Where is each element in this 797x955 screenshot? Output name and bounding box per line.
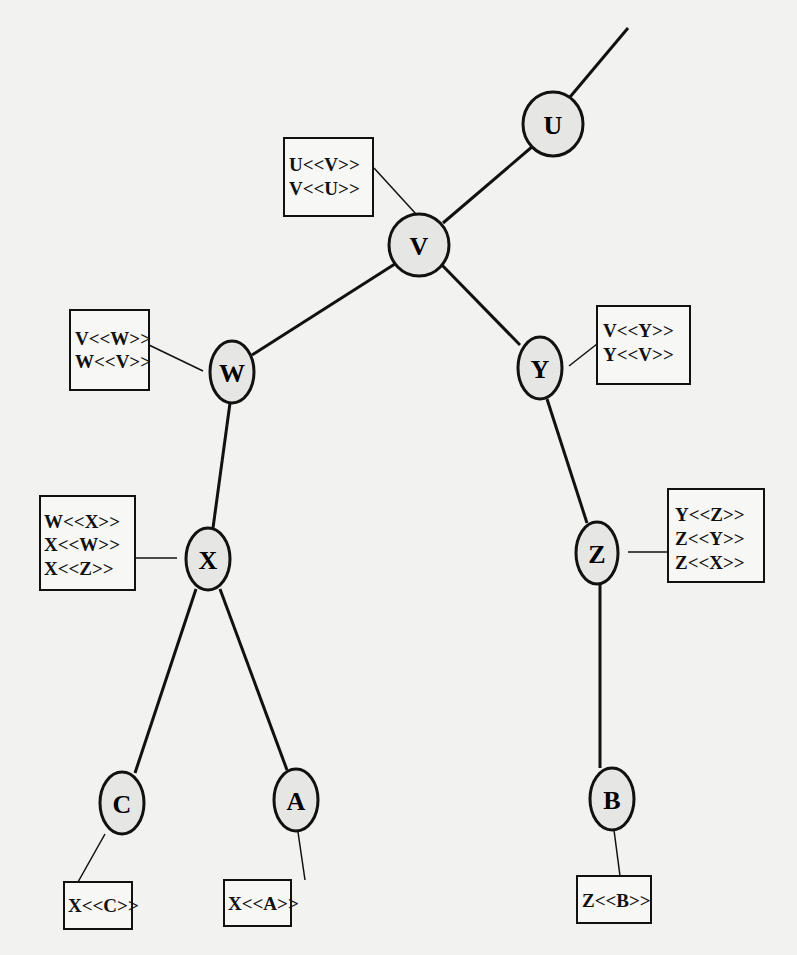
box-v — [284, 138, 373, 216]
box-c-line-1: X<<C>> — [68, 895, 139, 916]
box-z-line-1: Y<<Z>> — [675, 504, 745, 525]
box-x-line-2: X<<W>> — [44, 534, 120, 555]
node-c: C — [100, 772, 144, 834]
box-a-line-1: X<<A>> — [228, 893, 299, 914]
node-v: V — [389, 214, 449, 276]
box-connectors — [78, 168, 668, 882]
node-v-label: V — [410, 232, 429, 261]
edge-y-z — [547, 399, 587, 523]
node-a-label: A — [287, 787, 306, 816]
tree-diagram: U<<V>> V<<U>> V<<W>> W<<V>> V<<Y>> Y<<V>… — [0, 0, 797, 955]
edge-v-y — [440, 263, 520, 345]
edge-w-x — [213, 403, 230, 528]
box-w-line-2: W<<V>> — [75, 351, 151, 372]
box-z-line-2: Z<<Y>> — [675, 528, 745, 549]
box-y-line-2: Y<<V>> — [603, 344, 674, 365]
box-z-line-3: Z<<X>> — [675, 552, 745, 573]
node-c-label: C — [113, 790, 132, 819]
node-w-label: W — [219, 359, 245, 388]
node-x-label: X — [199, 546, 218, 575]
node-w: W — [210, 341, 254, 403]
edge-x-c — [135, 589, 196, 773]
node-z: Z — [576, 522, 618, 584]
node-u-label: U — [544, 111, 563, 140]
annotation-box-texts: U<<V>> V<<U>> V<<W>> W<<V>> V<<Y>> Y<<V>… — [44, 154, 745, 916]
box-x-line-1: W<<X>> — [44, 511, 120, 532]
edge-x-a — [220, 589, 287, 770]
node-y: Y — [518, 337, 562, 399]
node-a: A — [274, 769, 318, 831]
box-v-line-2: V<<U>> — [289, 178, 360, 199]
box-b-line-1: Z<<B>> — [582, 890, 651, 911]
box-w — [70, 310, 149, 390]
box-y-line-1: V<<Y>> — [603, 320, 674, 341]
node-u: U — [523, 92, 583, 156]
node-b-label: B — [603, 786, 620, 815]
node-y-label: Y — [531, 355, 550, 384]
box-x-line-3: X<<Z>> — [44, 558, 114, 579]
node-x: X — [186, 528, 230, 590]
node-z-label: Z — [588, 540, 605, 569]
edge-u-v — [443, 146, 533, 223]
edge-u-parent — [570, 28, 628, 97]
box-w-line-1: V<<W>> — [75, 328, 151, 349]
box-v-line-1: U<<V>> — [289, 154, 360, 175]
node-b: B — [590, 768, 634, 830]
edge-v-w — [252, 262, 398, 355]
